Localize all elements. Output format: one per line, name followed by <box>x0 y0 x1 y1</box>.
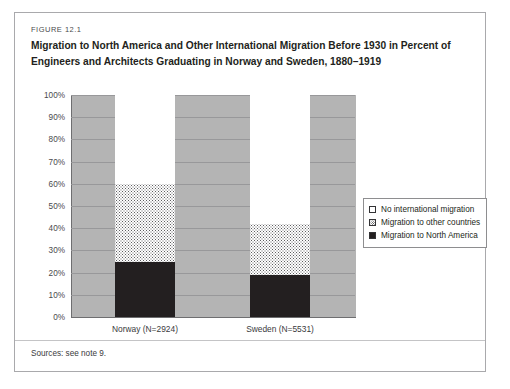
bar-segment <box>250 95 310 224</box>
y-axis-tick-label: 20% <box>49 268 65 277</box>
white-square-icon <box>369 206 376 213</box>
footer-divider <box>15 340 485 341</box>
figure-title: Migration to North America and Other Int… <box>31 38 463 69</box>
figure-number-label: FIGURE 12.1 <box>31 25 82 34</box>
gridline <box>71 162 355 163</box>
gridline <box>71 273 355 274</box>
legend-item[interactable]: Migration to other countries <box>369 216 480 229</box>
legend-item-label: No international migration <box>381 205 474 214</box>
chart-legend: No international migrationMigration to o… <box>363 198 487 248</box>
bar-segment <box>115 184 175 262</box>
gridline <box>71 228 355 229</box>
gridline <box>71 250 355 251</box>
y-axis-tick-label: 40% <box>49 224 65 233</box>
legend-item[interactable]: Migration to North America <box>369 229 480 242</box>
y-axis-tick-label: 60% <box>49 179 65 188</box>
y-axis-tick-label: 100% <box>44 91 65 100</box>
bar-segment <box>250 275 310 317</box>
bar <box>250 95 310 317</box>
y-axis-tick-label: 90% <box>49 113 65 122</box>
y-axis-tick-label: 80% <box>49 135 65 144</box>
legend-item-label: Migration to North America <box>381 231 478 240</box>
figure-card: FIGURE 12.1 Migration to North America a… <box>14 12 486 372</box>
x-axis-tick-label: Sweden (N=5531) <box>246 324 314 334</box>
y-axis-tick-label: 50% <box>49 202 65 211</box>
black-square-icon <box>369 232 376 239</box>
y-axis-tick-label: 70% <box>49 157 65 166</box>
x-axis-tick-label: Norway (N=2924) <box>112 324 178 334</box>
bar <box>115 95 175 317</box>
bar-segment <box>115 262 175 318</box>
chart-plot: 0%10%20%30%40%50%60%70%80%90%100% Norway… <box>71 95 355 317</box>
gridline <box>71 95 355 96</box>
y-axis-tick-label: 30% <box>49 246 65 255</box>
bar-segment <box>250 224 310 275</box>
legend-item[interactable]: No international migration <box>369 203 480 216</box>
bar-segment <box>115 95 175 184</box>
y-axis-tick-label: 0% <box>53 313 65 322</box>
gridline <box>71 295 355 296</box>
gridline <box>71 139 355 140</box>
sources-note: Sources: see note 9. <box>31 349 106 358</box>
y-axis-tick-label: 10% <box>49 290 65 299</box>
legend-item-label: Migration to other countries <box>381 218 480 227</box>
dotted-square-icon <box>369 219 376 226</box>
gridline <box>71 117 355 118</box>
gridline <box>71 184 355 185</box>
gridline <box>71 206 355 207</box>
